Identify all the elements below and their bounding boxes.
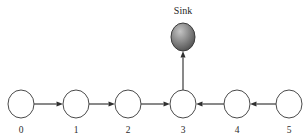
diagram-canvas: 012345Sink xyxy=(0,0,307,140)
arrow-head-icon xyxy=(164,102,171,107)
node-label-0: 0 xyxy=(19,125,24,135)
node-label-2: 2 xyxy=(126,125,131,135)
node-label-3: 3 xyxy=(181,125,186,135)
node-label-1: 1 xyxy=(74,125,79,135)
graph-edge xyxy=(250,102,276,107)
graph-node-2[interactable] xyxy=(115,90,141,118)
graph-node-3[interactable] xyxy=(170,90,196,118)
graph-edge xyxy=(196,102,224,107)
graph-diagram: 012345Sink xyxy=(0,0,307,140)
graph-edge xyxy=(34,102,63,107)
graph-edge xyxy=(141,102,170,107)
arrow-head-icon xyxy=(196,102,203,107)
graph-node-5[interactable] xyxy=(276,90,302,118)
node-label-5: 5 xyxy=(287,125,292,135)
sink-node[interactable] xyxy=(171,23,195,51)
graph-node-0[interactable] xyxy=(8,90,34,118)
sink-layer xyxy=(171,23,195,51)
graph-node-1[interactable] xyxy=(63,90,89,118)
sink-label: Sink xyxy=(174,5,192,16)
labels-layer: 012345Sink xyxy=(19,5,292,135)
arrow-head-icon xyxy=(109,102,116,107)
graph-edge xyxy=(181,51,186,90)
graph-edge xyxy=(89,102,115,107)
node-label-4: 4 xyxy=(235,125,240,135)
graph-node-4[interactable] xyxy=(224,90,250,118)
arrow-head-icon xyxy=(57,102,64,107)
arrow-head-icon xyxy=(181,51,186,58)
arrow-head-icon xyxy=(250,102,257,107)
